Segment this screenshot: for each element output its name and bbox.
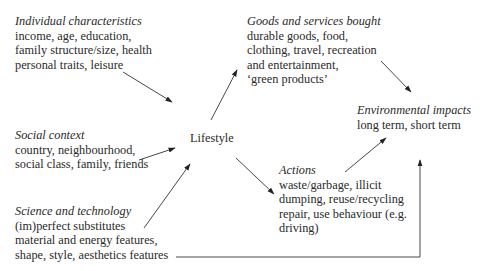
node-environmental-impacts: Environmental impacts long term, short t… <box>357 103 471 132</box>
node-line: repair, use behaviour (e.g. <box>279 207 407 222</box>
node-title: Goods and services bought <box>247 14 381 29</box>
arrow-individual-to-lifestyle <box>123 72 172 102</box>
node-line: personal traits, leisure <box>15 58 152 73</box>
node-line: material and energy features, <box>15 233 168 248</box>
node-label: Lifestyle <box>190 131 234 146</box>
node-goods-and-services: Goods and services bought durable goods,… <box>247 14 381 87</box>
node-title: Environmental impacts <box>357 103 471 118</box>
node-line: ‘green products’ <box>247 72 381 87</box>
node-social-context: Social context country, neighbourhood, s… <box>15 128 148 172</box>
arrow-lifestyle-to-goods <box>211 70 237 120</box>
arrow-goods-to-environmental <box>381 61 411 92</box>
node-title: Individual characteristics <box>15 14 152 29</box>
node-line: country, neighbourhood, <box>15 143 148 158</box>
node-actions: Actions waste/garbage, illicit dumping, … <box>279 163 407 236</box>
node-lifestyle: Lifestyle <box>190 131 234 146</box>
node-line: waste/garbage, illicit <box>279 178 407 193</box>
node-science-and-technology: Science and technology (im)perfect subst… <box>15 204 168 262</box>
node-title: Science and technology <box>15 204 168 219</box>
node-line: durable goods, food, <box>247 29 381 44</box>
node-title: Social context <box>15 128 148 143</box>
node-line: dumping, reuse/recycling <box>279 192 407 207</box>
node-line: driving) <box>279 221 407 236</box>
node-line: and entertainment, <box>247 58 381 73</box>
node-line: family structure/size, health <box>15 43 152 58</box>
node-line: clothing, travel, recreation <box>247 43 381 58</box>
node-line: income, age, education, <box>15 29 152 44</box>
node-line: long term, short term <box>357 118 471 133</box>
arrow-lifestyle-to-actions <box>236 158 274 194</box>
node-line: shape, style, aesthetics features <box>15 248 168 263</box>
node-line: (im)perfect substitutes <box>15 219 168 234</box>
node-line: social class, family, friends <box>15 157 148 172</box>
node-title: Actions <box>279 163 407 178</box>
node-individual-characteristics: Individual characteristics income, age, … <box>15 14 152 72</box>
